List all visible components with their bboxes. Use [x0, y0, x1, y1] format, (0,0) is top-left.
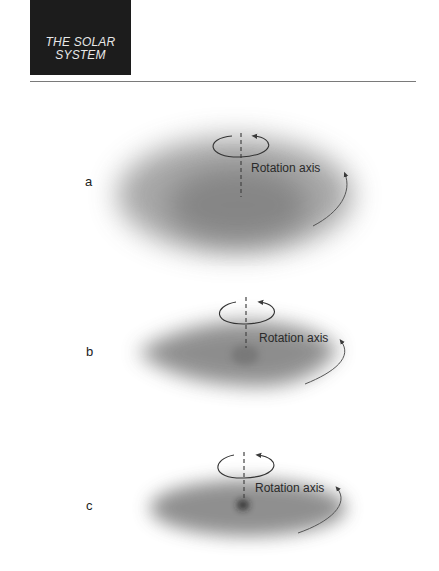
rotation-axis-label-a: Rotation axis — [251, 161, 320, 175]
panel-label-a: a — [85, 174, 92, 189]
cloud-a — [117, 137, 353, 253]
rotation-axis-label-c: Rotation axis — [255, 481, 324, 495]
panel-label-c: c — [86, 498, 93, 513]
spin-ring-arrow-c — [218, 455, 274, 478]
protostar-core — [237, 500, 249, 510]
spin-ring-arrow-b — [219, 302, 274, 324]
rotation-axis-label-b: Rotation axis — [259, 331, 328, 345]
nebula-collapse-figure — [0, 0, 439, 571]
panel-label-b: b — [86, 344, 93, 359]
panel-a — [117, 133, 353, 253]
